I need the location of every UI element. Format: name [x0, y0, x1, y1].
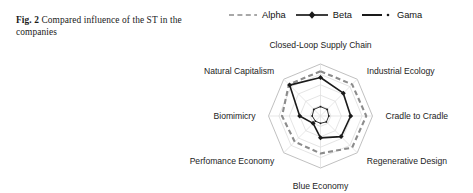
figure-caption: Fig. 2 Compared influence of the ST in t…	[16, 14, 186, 39]
radar-axis-label: Cradle to Cradle	[386, 111, 449, 121]
chart-legend: Alpha Beta Gama	[228, 7, 422, 23]
legend-swatch-diamond-icon	[295, 10, 329, 20]
radar-chart-svg: Closed-Loop Supply ChainIndustrial Ecolo…	[168, 30, 473, 193]
figure-caption-text: Compared influence of the ST in the comp…	[16, 15, 182, 37]
radar-axis-label: Industrial Ecology	[367, 66, 436, 76]
legend-item-gama: Gama	[361, 10, 422, 21]
legend-swatch-dot-icon	[361, 10, 393, 20]
legend-label-alpha: Alpha	[262, 10, 286, 21]
radar-axis-label: Closed-Loop Supply Chain	[269, 40, 371, 50]
legend-swatch-dashed-icon	[228, 10, 258, 20]
legend-item-beta: Beta	[295, 10, 352, 21]
figure-number: Fig. 2	[16, 15, 39, 25]
legend-label-gama: Gama	[397, 10, 422, 21]
figure-container: Fig. 2 Compared influence of the ST in t…	[0, 0, 473, 193]
radar-axis-label: Natural Capitalism	[204, 66, 274, 76]
radar-axis-label: Regenerative Design	[367, 156, 447, 166]
radar-axis-label: Perfomance Economy	[190, 156, 275, 166]
legend-item-alpha: Alpha	[228, 10, 286, 21]
radar-axis-label: Blue Economy	[293, 181, 349, 191]
radar-chart: Closed-Loop Supply ChainIndustrial Ecolo…	[168, 30, 473, 193]
radar-axis-label: Biomimicry	[213, 111, 256, 121]
legend-label-beta: Beta	[333, 10, 352, 21]
radar-axis-labels: Closed-Loop Supply ChainIndustrial Ecolo…	[190, 40, 449, 191]
